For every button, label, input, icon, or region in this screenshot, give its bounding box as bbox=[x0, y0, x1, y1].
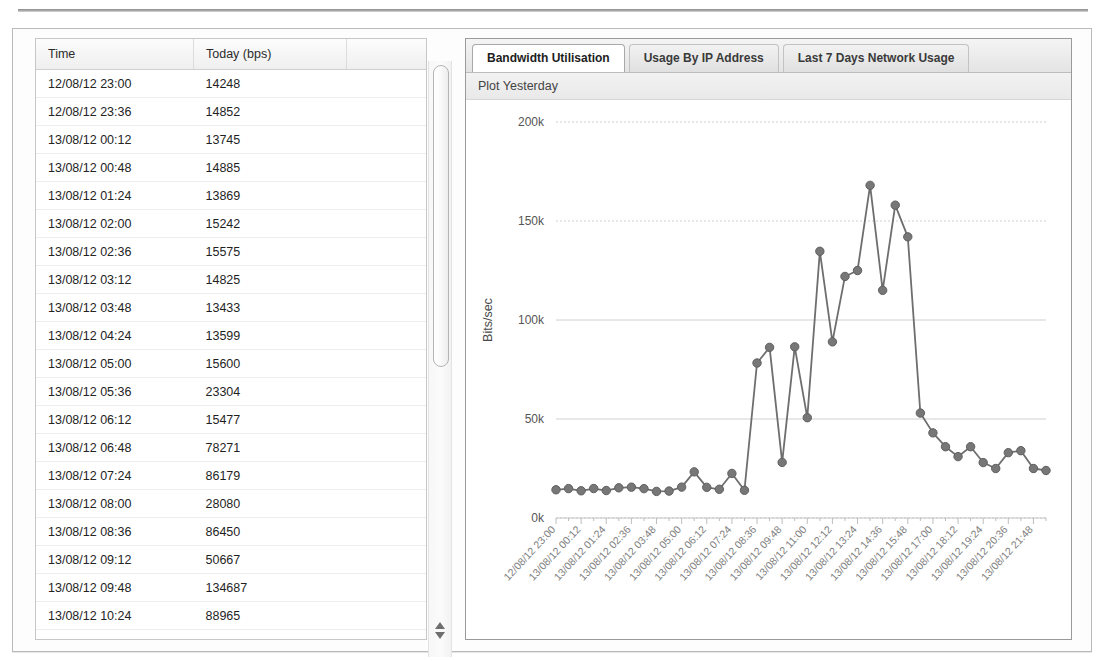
y-axis-tick-label: 0k bbox=[531, 511, 545, 525]
table-row[interactable]: 13/08/12 03:1214825 bbox=[36, 266, 426, 294]
cell-today-bps: 14248 bbox=[194, 70, 347, 98]
table-row[interactable]: 13/08/12 07:2486179 bbox=[36, 462, 426, 490]
cell-today-bps: 23304 bbox=[194, 378, 347, 406]
data-point[interactable] bbox=[552, 486, 560, 494]
tab-bandwidth-utilisation[interactable]: Bandwidth Utilisation bbox=[472, 44, 625, 72]
data-point[interactable] bbox=[715, 485, 723, 493]
data-point[interactable] bbox=[602, 486, 610, 494]
scroll-up-arrow-icon[interactable] bbox=[435, 622, 445, 629]
data-point[interactable] bbox=[640, 484, 648, 492]
column-header-time[interactable]: Time bbox=[36, 39, 194, 70]
data-point[interactable] bbox=[1029, 464, 1037, 472]
data-point[interactable] bbox=[1004, 448, 1012, 456]
cell-time: 13/08/12 05:00 bbox=[36, 350, 194, 378]
data-point[interactable] bbox=[891, 201, 899, 209]
data-point[interactable] bbox=[652, 487, 660, 495]
cell-spacer bbox=[347, 490, 427, 518]
cell-today-bps: 13869 bbox=[194, 182, 347, 210]
cell-spacer bbox=[347, 406, 427, 434]
table-header: Time Today (bps) bbox=[36, 39, 426, 70]
data-point[interactable] bbox=[916, 409, 924, 417]
plot-subheader: Plot Yesterday bbox=[466, 73, 1071, 100]
cell-spacer bbox=[347, 322, 427, 350]
table-row[interactable]: 13/08/12 00:4814885 bbox=[36, 154, 426, 182]
cell-today-bps: 50667 bbox=[194, 546, 347, 574]
data-point[interactable] bbox=[728, 469, 736, 477]
data-point[interactable] bbox=[690, 468, 698, 476]
data-point[interactable] bbox=[765, 343, 773, 351]
cell-spacer bbox=[347, 518, 427, 546]
data-point[interactable] bbox=[589, 484, 597, 492]
table-row[interactable]: 13/08/12 09:1250667 bbox=[36, 546, 426, 574]
table-row[interactable]: 12/08/12 23:3614852 bbox=[36, 98, 426, 126]
data-point[interactable] bbox=[979, 458, 987, 466]
column-header-spacer[interactable] bbox=[347, 39, 427, 70]
cell-spacer bbox=[347, 462, 427, 490]
data-point[interactable] bbox=[703, 483, 711, 491]
data-point[interactable] bbox=[615, 484, 623, 492]
table-row[interactable]: 13/08/12 04:2413599 bbox=[36, 322, 426, 350]
data-point[interactable] bbox=[828, 338, 836, 346]
data-point[interactable] bbox=[992, 464, 1000, 472]
table-scrollbar[interactable] bbox=[428, 61, 452, 657]
data-point[interactable] bbox=[791, 343, 799, 351]
data-point[interactable] bbox=[1042, 466, 1050, 474]
data-point[interactable] bbox=[841, 272, 849, 280]
data-point[interactable] bbox=[753, 359, 761, 367]
data-point[interactable] bbox=[954, 452, 962, 460]
data-point[interactable] bbox=[803, 413, 811, 421]
table-row[interactable]: 13/08/12 05:0015600 bbox=[36, 350, 426, 378]
data-point[interactable] bbox=[816, 247, 824, 255]
tab-last-7-days-network-usage[interactable]: Last 7 Days Network Usage bbox=[783, 44, 970, 72]
cell-spacer bbox=[347, 434, 427, 462]
cell-spacer bbox=[347, 210, 427, 238]
data-point[interactable] bbox=[853, 266, 861, 274]
cell-today-bps: 14885 bbox=[194, 154, 347, 182]
chart-panel: Bandwidth UtilisationUsage By IP Address… bbox=[465, 38, 1072, 640]
cell-today-bps: 13433 bbox=[194, 294, 347, 322]
cell-time: 13/08/12 06:12 bbox=[36, 406, 194, 434]
scrollbar-thumb[interactable] bbox=[433, 65, 449, 367]
cell-time: 13/08/12 01:24 bbox=[36, 182, 194, 210]
table-row[interactable]: 13/08/12 03:4813433 bbox=[36, 294, 426, 322]
cell-time: 13/08/12 10:24 bbox=[36, 602, 194, 630]
tab-usage-by-ip-address[interactable]: Usage By IP Address bbox=[629, 44, 779, 72]
data-point[interactable] bbox=[966, 443, 974, 451]
data-point[interactable] bbox=[866, 181, 874, 189]
cell-time: 12/08/12 23:36 bbox=[36, 98, 194, 126]
data-point[interactable] bbox=[665, 487, 673, 495]
table-row[interactable]: 13/08/12 06:4878271 bbox=[36, 434, 426, 462]
data-point[interactable] bbox=[740, 486, 748, 494]
data-point[interactable] bbox=[778, 458, 786, 466]
table-row[interactable]: 13/08/12 00:1213745 bbox=[36, 126, 426, 154]
table-row[interactable]: 13/08/12 06:1215477 bbox=[36, 406, 426, 434]
column-header-today-bps[interactable]: Today (bps) bbox=[194, 39, 347, 70]
table-header-row: Time Today (bps) bbox=[36, 39, 426, 70]
data-point[interactable] bbox=[1017, 446, 1025, 454]
data-point[interactable] bbox=[904, 233, 912, 241]
data-point[interactable] bbox=[677, 483, 685, 491]
table-row[interactable]: 13/08/12 09:48134687 bbox=[36, 574, 426, 602]
table-row[interactable]: 12/08/12 23:0014248 bbox=[36, 70, 426, 98]
cell-spacer bbox=[347, 350, 427, 378]
data-point[interactable] bbox=[878, 286, 886, 294]
table-row[interactable]: 13/08/12 02:0015242 bbox=[36, 210, 426, 238]
cell-time: 13/08/12 08:00 bbox=[36, 490, 194, 518]
data-point[interactable] bbox=[929, 429, 937, 437]
data-point[interactable] bbox=[564, 484, 572, 492]
table-row[interactable]: 13/08/12 08:0028080 bbox=[36, 490, 426, 518]
data-point[interactable] bbox=[577, 487, 585, 495]
table-row[interactable]: 13/08/12 02:3615575 bbox=[36, 238, 426, 266]
y-axis-tick-label: 100k bbox=[518, 313, 545, 327]
plot-area: 0k50k100k150k200kBits/sec12/08/12 23:001… bbox=[466, 100, 1071, 637]
cell-time: 13/08/12 06:48 bbox=[36, 434, 194, 462]
table-row[interactable]: 13/08/12 01:2413869 bbox=[36, 182, 426, 210]
data-point[interactable] bbox=[627, 483, 635, 491]
cell-spacer bbox=[347, 266, 427, 294]
scroll-down-arrow-icon[interactable] bbox=[435, 632, 445, 639]
cell-today-bps: 14852 bbox=[194, 98, 347, 126]
table-row[interactable]: 13/08/12 05:3623304 bbox=[36, 378, 426, 406]
table-row[interactable]: 13/08/12 08:3686450 bbox=[36, 518, 426, 546]
table-row[interactable]: 13/08/12 10:2488965 bbox=[36, 602, 426, 630]
data-point[interactable] bbox=[941, 443, 949, 451]
